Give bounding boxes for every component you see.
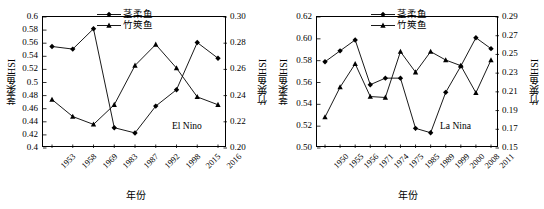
x-tick-labels-la-nina: 1950195519561971197419751985198919992000… (316, 150, 498, 184)
legend-label: 竹筴鱼 (122, 20, 153, 31)
y-tick-label: 0.19 (502, 105, 518, 114)
triangle-marker-icon (370, 20, 396, 31)
annotation-la-nina: La Nina (440, 121, 471, 131)
legend-label: 茎柔鱼 (396, 9, 427, 20)
y-tick-label: 0.6 (27, 12, 38, 21)
y-tick-label: 0.25 (502, 49, 518, 58)
legend-item: 竹筴鱼 (370, 20, 427, 31)
y-tick-label: 0.42 (22, 129, 38, 138)
y-tick-label: 0.52 (22, 64, 38, 73)
legend-item: 竹筴鱼 (96, 20, 153, 31)
panel-la-nina: 茎柔鱼HSI 竹筴鱼HSI 0.500.520.540.560.580.600.… (272, 0, 544, 209)
x-tick-label: 2015 (204, 152, 222, 170)
y-tick-label: 0.23 (502, 68, 518, 77)
triangle-marker-icon (96, 20, 122, 31)
y-tick-labels-right-el-nino: 0.200.220.240.260.280.30 (230, 16, 258, 147)
y-tick-label: 0.58 (296, 55, 312, 64)
y-tick-label: 0.17 (502, 124, 518, 133)
y-tick-label: 0.56 (22, 38, 38, 47)
y-tick-label: 0.28 (230, 38, 246, 47)
y-tick-label: 0.48 (22, 90, 38, 99)
y-tick-label: 0.29 (502, 12, 518, 21)
y-tick-label: 0.46 (22, 103, 38, 112)
legend-label: 竹筴鱼 (396, 20, 427, 31)
y-tick-label: 0.52 (296, 121, 312, 130)
diamond-marker-icon (96, 9, 122, 20)
legend-item: 茎柔鱼 (370, 9, 427, 20)
y-tick-label: 0.27 (502, 30, 518, 39)
y-tick-label: 0.20 (230, 143, 246, 152)
x-tick-label: 1958 (80, 152, 98, 170)
y-tick-labels-left-la-nina: 0.500.520.540.560.580.600.62 (282, 16, 312, 147)
x-tick-labels-el-nino: 195319581969198319871992199820152016 (42, 150, 226, 184)
y-tick-labels-right-la-nina: 0.150.170.190.210.230.250.270.29 (502, 16, 530, 147)
y-tick-label: 0.22 (230, 116, 246, 125)
panel-el-nino: 茎柔鱼HSI 竹筴鱼HSI 0.40.420.440.460.480.50.52… (0, 0, 272, 209)
y-tick-label: 0.21 (502, 86, 518, 95)
y-tick-label: 0.4 (27, 143, 38, 152)
series-lines-la-nina (317, 17, 499, 148)
y-tick-labels-left-el-nino: 0.40.420.440.460.480.50.520.540.560.580.… (8, 16, 38, 147)
y-tick-label: 0.54 (296, 99, 312, 108)
y-tick-label: 0.5 (27, 77, 38, 86)
x-tick-label: 2016 (225, 152, 243, 170)
legend-label: 茎柔鱼 (122, 9, 153, 20)
x-tick-label: 1983 (121, 152, 139, 170)
annotation-el-nino: El Nino (172, 121, 202, 131)
x-tick-label: 1998 (183, 152, 201, 170)
legend-item: 茎柔鱼 (96, 9, 153, 20)
x-tick-label: 2011 (498, 152, 516, 170)
legend-la-nina: 茎柔鱼竹筴鱼 (370, 9, 427, 31)
y-tick-label: 0.62 (296, 12, 312, 21)
x-tick-label: 1969 (100, 152, 118, 170)
x-tick-label: 1992 (163, 152, 181, 170)
dual-panel-line-chart-figure: 茎柔鱼HSI 竹筴鱼HSI 0.40.420.440.460.480.50.52… (0, 0, 544, 209)
y-tick-label: 0.58 (22, 25, 38, 34)
y-tick-label: 0.54 (22, 51, 38, 60)
legend-el-nino: 茎柔鱼竹筴鱼 (96, 9, 153, 31)
y-tick-label: 0.50 (296, 143, 312, 152)
y-tick-label: 0.24 (230, 90, 246, 99)
y-tick-label: 0.56 (296, 77, 312, 86)
y-tick-label: 0.44 (22, 116, 38, 125)
diamond-marker-icon (370, 9, 396, 20)
x-axis-title-la-nina: 年份 (272, 187, 544, 202)
y-tick-label: 0.15 (502, 143, 518, 152)
y-tick-label: 0.26 (230, 64, 246, 73)
y-tick-label: 0.30 (230, 12, 246, 21)
x-tick-label: 1987 (142, 152, 160, 170)
x-axis-title-el-nino: 年份 (0, 187, 272, 202)
x-tick-label: 1953 (59, 152, 77, 170)
y-tick-label: 0.60 (296, 33, 312, 42)
